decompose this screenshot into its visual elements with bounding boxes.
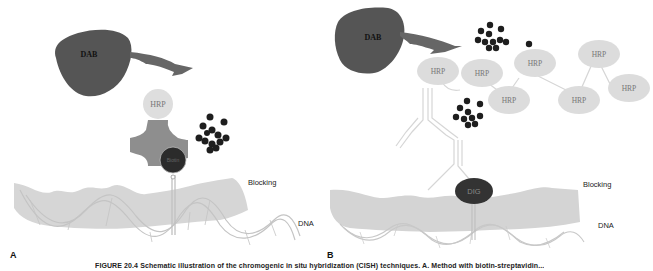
svg-text:HRP: HRP	[528, 59, 543, 68]
svg-text:HRP: HRP	[475, 69, 490, 78]
dab-precipitate-b-lower	[453, 98, 483, 128]
panel-label-b: B	[327, 250, 334, 260]
dig-label: DIG	[467, 187, 481, 196]
dab-precipitate-b-top	[475, 22, 532, 51]
panel-b: HRP HRP HRP HRP HRP HRP HRP DIG DAB	[327, 8, 650, 260]
hrp-label-a: HRP	[150, 100, 166, 109]
dab-label-a: DAB	[81, 50, 99, 59]
svg-text:HRP: HRP	[622, 84, 637, 93]
panel-a: HRP Biotin DAB Blocking DNA A	[10, 30, 314, 260]
figure-canvas: HRP Biotin DAB Blocking DNA A	[0, 0, 653, 271]
dab-label-b: DAB	[365, 33, 383, 42]
svg-text:HRP: HRP	[431, 67, 446, 76]
svg-text:HRP: HRP	[502, 96, 517, 105]
blocking-label-b: Blocking	[583, 180, 611, 189]
dna-label-b: DNA	[598, 221, 614, 230]
dab-blob-a	[55, 30, 131, 97]
svg-text:HRP: HRP	[572, 96, 587, 105]
dab-precipitate-a	[196, 114, 230, 154]
blocking-layer-b	[330, 187, 580, 232]
figure-caption: FIGURE 20.4 Schematic illustration of th…	[95, 262, 544, 271]
blocking-label-a: Blocking	[248, 178, 276, 187]
panel-label-a: A	[10, 250, 17, 260]
dab-arrow-b	[400, 32, 462, 54]
dna-label-a: DNA	[298, 219, 314, 228]
dab-arrow-a	[130, 52, 193, 76]
biotin-label: Biotin	[167, 157, 180, 163]
svg-text:HRP: HRP	[592, 50, 607, 59]
hrp-polymer: HRP HRP HRP HRP HRP HRP HRP	[417, 40, 650, 114]
